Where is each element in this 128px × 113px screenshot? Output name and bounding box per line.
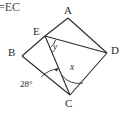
vertex-label-B: B [8, 47, 15, 58]
vertex-label-D: D [111, 45, 119, 56]
vertex-label-E: E [33, 26, 40, 37]
segment-E-B [22, 36, 45, 56]
angle-label-y: y [53, 43, 57, 53]
segment-E-C [45, 36, 70, 95]
angle-label-28-degrees: 28° [20, 80, 33, 89]
caption-text: =EC [0, 1, 20, 13]
segment-A-E [45, 18, 68, 36]
segment-B-C [22, 56, 70, 95]
geometry-diagram [0, 0, 128, 113]
segment-C-D [70, 53, 107, 95]
geometry-figure-screen: =EC A B D C E y x 28° [0, 0, 128, 113]
vertex-label-A: A [64, 5, 72, 16]
angle-label-x: x [70, 63, 74, 73]
vertex-label-C: C [65, 98, 72, 109]
